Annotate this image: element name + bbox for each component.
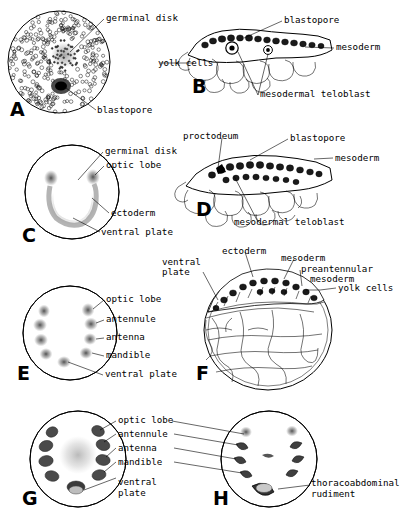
label-d-proctodeum: proctodeum (183, 131, 238, 142)
label-e-ventral-plate: ventral plate (105, 369, 177, 380)
panel-c-artwork (25, 145, 119, 239)
label-h-thoracoabdominal-2: rudiment (311, 489, 355, 500)
panel-g-artwork (30, 411, 126, 507)
label-b-mesodermal-teloblast: mesodermal teloblast (260, 89, 371, 100)
label-f-yolk-cells: yolk cells (338, 283, 393, 294)
label-e-antenna: antenna (106, 332, 145, 343)
label-a-blastopore: blastopore (97, 105, 152, 116)
label-d-mesodermal-teloblast: mesodermal teloblast (234, 217, 345, 228)
panel-letter-e: E (17, 364, 30, 383)
label-e-mandible: mandible (106, 350, 150, 361)
panel-e-artwork (23, 286, 117, 380)
label-b-blastopore: blastopore (284, 15, 339, 26)
label-d-mesoderm: mesoderm (335, 153, 379, 164)
label-e-antennule: antennule (106, 314, 156, 325)
label-g-optic-lobe: optic lobe (118, 415, 173, 426)
label-g-mandible: mandible (118, 457, 162, 468)
panel-f-artwork (204, 269, 332, 390)
label-b-yolk-cells: yolk cells (158, 58, 213, 69)
label-g-ventral-plate-1: ventral (118, 477, 157, 488)
panel-letter-f: F (196, 364, 209, 383)
label-c-ventral-plate: ventral plate (101, 227, 173, 238)
label-g-ventral-plate-2: plate (118, 488, 146, 499)
label-e-optic-lobe: optic lobe (106, 294, 161, 305)
label-g-antennule: antennule (118, 429, 168, 440)
panel-letter-c: C (22, 226, 36, 245)
label-f-mesoderm: mesoderm (281, 253, 325, 264)
label-f-ectoderm: ectoderm (222, 246, 266, 257)
panel-letter-a: A (10, 100, 25, 119)
label-d-blastopore: blastopore (290, 133, 345, 144)
panel-letter-g: G (22, 489, 38, 508)
label-c-optic-lobe: optic lobe (106, 160, 161, 171)
label-g-antenna: antenna (118, 443, 157, 454)
label-c-germinal-disk: germinal disk (105, 146, 177, 157)
label-f-ventral-plate-2: plate (162, 267, 190, 278)
figure-plate: germinal disk blastopore A blastopore me… (0, 0, 402, 521)
label-h-thoracoabdominal-1: thoracoabdominal (311, 478, 400, 489)
label-b-mesoderm: mesoderm (336, 42, 380, 53)
label-a-germinal-disk: germinal disk (106, 13, 178, 24)
label-c-ectoderm: ectoderm (111, 208, 155, 219)
panel-letter-b: B (192, 77, 206, 96)
panel-letter-d: D (196, 200, 212, 219)
panel-letter-h: H (213, 489, 229, 508)
